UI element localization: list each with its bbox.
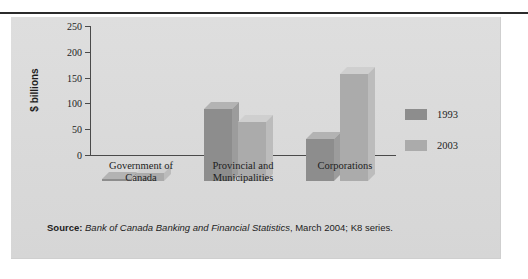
y-tick-mark [85, 52, 90, 53]
y-tick-mark [85, 78, 90, 79]
y-tick-mark [85, 103, 90, 104]
category-label-2: Provincial andMunicipalities [192, 160, 294, 184]
legend-label-1993: 1993 [437, 109, 458, 120]
y-tick-label: 0 [77, 150, 82, 161]
y-tick-mark [85, 155, 90, 156]
legend-swatch-1993-icon [405, 109, 427, 120]
y-axis-line [90, 26, 91, 155]
y-tick-label: 200 [67, 46, 82, 57]
source-detail: , March 2004; K8 series. [290, 222, 393, 233]
y-tick-label: 250 [67, 21, 82, 32]
y-tick-label: 100 [67, 98, 82, 109]
y-tick-mark [85, 26, 90, 27]
legend-item-2003[interactable]: 2003 [405, 135, 458, 155]
y-axis-title: $ billions [29, 68, 40, 111]
category-label-line: Provincial and [192, 160, 294, 172]
figure-container: $ billions 050100150200250 Government of… [0, 0, 528, 279]
y-tick-mark [85, 129, 90, 130]
y-tick-label: 50 [72, 124, 82, 135]
legend-swatch-2003-icon [405, 140, 427, 151]
category-label-line: Canada [90, 172, 192, 184]
category-label-3: Corporations [294, 160, 396, 172]
source-publication: Bank of Canada Banking and Financial Sta… [85, 222, 290, 233]
top-divider-rule [0, 12, 528, 14]
source-prefix: Source: [47, 222, 82, 233]
y-tick-label: 150 [67, 72, 82, 83]
category-label-line: Government of [90, 160, 192, 172]
legend-item-1993[interactable]: 1993 [405, 104, 458, 124]
category-label-1: Government ofCanada [90, 160, 192, 184]
legend-label-2003: 2003 [437, 140, 458, 151]
plot-area: $ billions 050100150200250 Government of… [90, 26, 396, 181]
chart-legend: 1993 2003 [405, 104, 458, 166]
source-caption: Source: Bank of Canada Banking and Finan… [47, 222, 393, 233]
category-label-line: Municipalities [192, 172, 294, 184]
category-label-line: Corporations [294, 160, 396, 172]
